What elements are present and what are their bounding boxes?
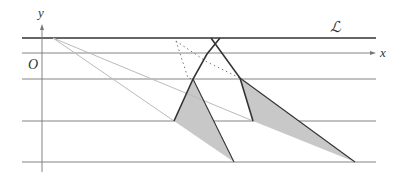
- x-axis-label: x: [380, 46, 386, 59]
- thick-path-right: [211, 38, 253, 121]
- x-axis-arrow-icon: [370, 51, 376, 55]
- line-L-label: ℒ: [330, 20, 341, 35]
- y-axis-arrow-icon: [40, 24, 44, 30]
- origin-label: O: [28, 58, 38, 72]
- diagram-canvas: [0, 0, 406, 179]
- ray-1: [53, 38, 174, 121]
- y-axis-label: y: [38, 6, 44, 19]
- ray-2: [53, 38, 253, 121]
- dotted-line-right: [176, 41, 240, 78]
- diagram: y x O ℒ: [0, 0, 406, 179]
